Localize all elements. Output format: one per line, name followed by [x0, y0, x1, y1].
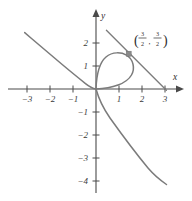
x-tick-labels: −3 −2 −1 1 2 3	[22, 94, 168, 104]
x-tick-label-neg3: −3	[22, 94, 33, 104]
y-tick-label-neg4: −4	[77, 176, 88, 186]
folium-loop	[96, 53, 133, 89]
y-axis-arrow-icon	[93, 9, 100, 17]
y-tick-label-neg2: −2	[77, 130, 88, 140]
point-label-y-numerator: 3	[156, 30, 159, 37]
point-label-close-paren: )	[163, 33, 168, 49]
x-axis-arrow-icon	[176, 86, 184, 93]
y-tick-label-1: 1	[84, 61, 89, 71]
x-tick-label-neg2: −2	[45, 94, 56, 104]
folium-lower-right-branch	[96, 89, 167, 185]
point-label-x-denominator: 2	[141, 40, 144, 47]
y-tick-label-neg3: −3	[77, 153, 88, 163]
y-tick-labels: 2 1 −1 −2 −3 −4	[77, 38, 88, 186]
y-tick-label-2: 2	[84, 38, 89, 48]
coordinate-plane: −3 −2 −1 1 2 3 2 1 −1 −2 −3 −4 x y	[0, 0, 192, 201]
point-label: ( 3 2 , 3 2 )	[134, 30, 168, 49]
x-axis-label: x	[172, 72, 178, 82]
y-tick-label-neg1: −1	[77, 107, 88, 117]
x-tick-label-3: 3	[162, 94, 168, 104]
x-tick-label-neg1: −1	[68, 94, 79, 104]
point-label-comma: ,	[149, 37, 151, 46]
tangency-point-marker	[126, 51, 131, 56]
point-label-y-denominator: 2	[156, 40, 159, 47]
y-axis-label: y	[100, 11, 106, 21]
x-tick-label-1: 1	[117, 94, 122, 104]
point-label-open-paren: (	[134, 33, 139, 49]
x-tick-label-2: 2	[140, 94, 145, 104]
graph-figure: −3 −2 −1 1 2 3 2 1 −1 −2 −3 −4 x y	[0, 0, 192, 201]
point-label-x-numerator: 3	[141, 30, 144, 37]
